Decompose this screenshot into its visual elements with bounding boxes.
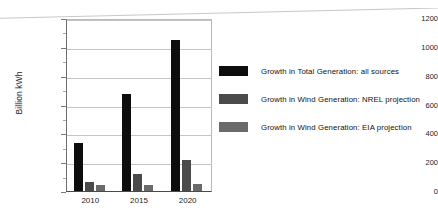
x-tick-label: 2020 [158,196,218,205]
y-tick-label: 0 [384,188,438,196]
y-axis-title: Billion kWh [14,33,24,153]
bar [144,185,153,191]
legend-item: Growth in Total Generation: all sources [219,57,434,85]
bar [193,184,202,191]
y-tick-mark [61,192,66,193]
bar [122,94,131,191]
legend-swatch [219,66,248,76]
legend-label: Growth in Wind Generation: EIA projectio… [261,123,412,132]
bar-group [67,20,116,191]
bar [133,174,142,191]
legend-item: Growth in Wind Generation: EIA projectio… [219,113,434,141]
bar-group [116,20,165,191]
y-tick-label: 1200 [384,15,438,23]
bar-chart-figure: Billion kWh 020040060080010001200 201020… [0,0,438,212]
bar-group [164,20,213,191]
y-tick-label: 200 [384,159,438,167]
legend-swatch [219,122,248,132]
legend-swatch [219,94,248,104]
chart-legend: Growth in Total Generation: all sourcesG… [219,57,434,141]
bar [182,160,191,191]
bar [96,185,105,191]
y-tick-label: 1000 [384,44,438,52]
legend-label: Growth in Total Generation: all sources [261,67,399,76]
legend-label: Growth in Wind Generation: NREL projecti… [261,95,420,104]
bar [171,40,180,191]
plot-area [66,19,212,192]
bar [85,182,94,191]
legend-item: Growth in Wind Generation: NREL projecti… [219,85,434,113]
bar [74,143,83,191]
